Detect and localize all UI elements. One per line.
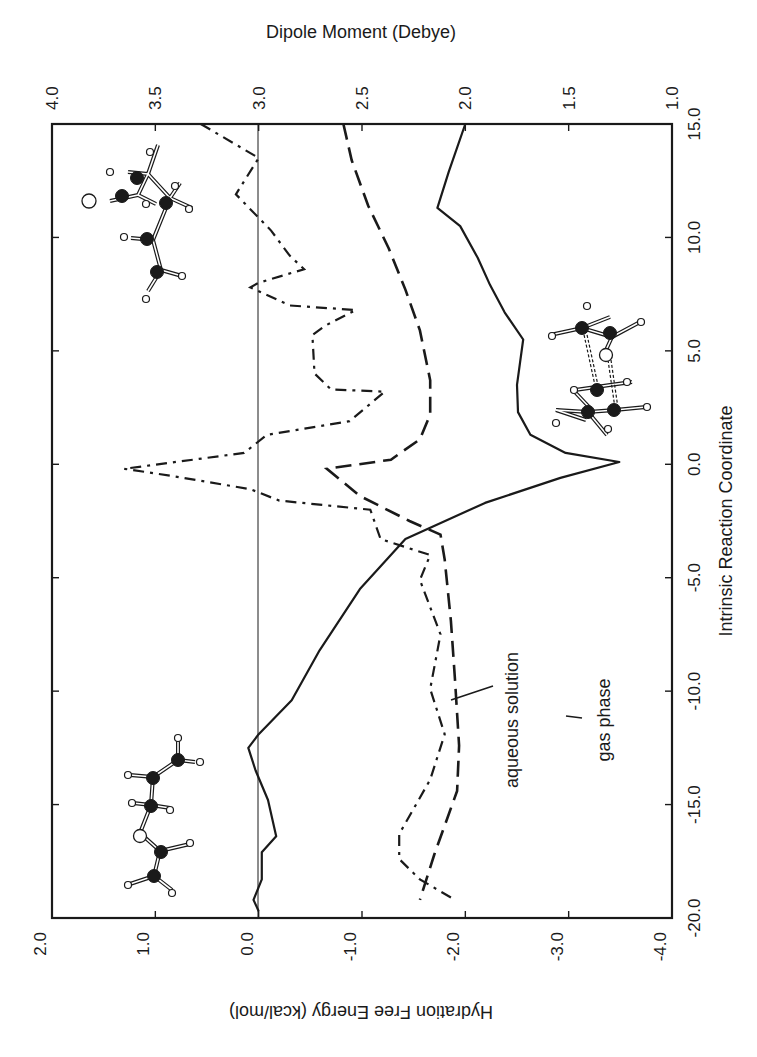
irc-tick-label: -10.0 xyxy=(685,672,704,711)
svg-text:-20.0: -20.0 xyxy=(685,899,704,938)
svg-text:0.0: 0.0 xyxy=(238,932,257,956)
hydration-tick-label: -4.0 xyxy=(651,932,670,961)
gas-phase-label: gas phase xyxy=(594,678,614,761)
chart: Dipole Moment (Debye) Hydration Free Ene… xyxy=(0,0,757,1057)
irc-axis-title-group: Intrinsic Reaction Coordinate xyxy=(716,405,736,636)
dipole-tick-label: 2.5 xyxy=(353,86,372,110)
svg-text:1.0: 1.0 xyxy=(663,86,682,110)
hydration-tick-label: 1.0 xyxy=(134,932,153,956)
svg-text:-2.0: -2.0 xyxy=(444,932,463,961)
svg-text:2.5: 2.5 xyxy=(353,86,372,110)
aqueous-solution-dipole-line xyxy=(124,124,455,900)
svg-text:3.5: 3.5 xyxy=(146,86,165,110)
product-molecule-icon xyxy=(82,145,193,303)
irc-tick-label: -20.0 xyxy=(685,899,704,938)
dipole-tick-label: 3.5 xyxy=(146,86,165,110)
irc-tick-label: 0.0 xyxy=(685,452,704,476)
svg-text:1.0: 1.0 xyxy=(134,932,153,956)
hydration-tick-labels: 2.01.00.0-1.0-2.0-3.0-4.0 xyxy=(31,932,670,961)
irc-tick-label: 15.0 xyxy=(685,107,704,140)
svg-text:15.0: 15.0 xyxy=(685,107,704,140)
reactant-molecule-icon xyxy=(125,735,204,897)
dipole-tick-labels: 4.03.53.02.52.01.51.0 xyxy=(43,86,682,110)
dipole-tick-label: 4.0 xyxy=(43,86,62,110)
aqueous-leader-line xyxy=(451,686,493,700)
hydration-tick-label: -3.0 xyxy=(548,932,567,961)
irc-tick-label: 5.0 xyxy=(685,339,704,363)
svg-text:-3.0: -3.0 xyxy=(548,932,567,961)
dipole-tick-label: 1.5 xyxy=(560,86,579,110)
irc-tick-label: -15.0 xyxy=(685,785,704,824)
gas-label-group: gas phase xyxy=(594,678,614,761)
hydration-tick-label: 2.0 xyxy=(31,932,50,956)
irc-tick-label: -5.0 xyxy=(685,563,704,592)
gas-phase-dipole-line xyxy=(327,124,459,900)
svg-text:-10.0: -10.0 xyxy=(685,672,704,711)
svg-text:3.0: 3.0 xyxy=(250,86,269,110)
svg-text:1.5: 1.5 xyxy=(560,86,579,110)
svg-text:5.0: 5.0 xyxy=(685,339,704,363)
irc-tick-label: 10.0 xyxy=(685,221,704,254)
dipole-tick-label: 3.0 xyxy=(250,86,269,110)
transition-state-molecule-icon xyxy=(549,303,651,436)
dipole-axis-title: Dipole Moment (Debye) xyxy=(266,22,456,42)
aqueous-label-group: aqueous solution xyxy=(502,652,522,788)
irc-axis-title: Intrinsic Reaction Coordinate xyxy=(716,405,736,636)
svg-text:2.0: 2.0 xyxy=(31,932,50,956)
irc-tick-labels: -20.0-15.0-10.0-5.00.05.010.015.0 xyxy=(685,107,704,937)
svg-text:2.0: 2.0 xyxy=(456,86,475,110)
svg-text:-5.0: -5.0 xyxy=(685,563,704,592)
hydration-axis-title-group: Hydration Free Energy (kcal/mol) xyxy=(229,1002,493,1022)
hydration-axis-title: Hydration Free Energy (kcal/mol) xyxy=(229,1002,493,1022)
svg-text:4.0: 4.0 xyxy=(43,86,62,110)
hydration-free-energy-line xyxy=(248,124,619,911)
hydration-tick-label: -1.0 xyxy=(341,932,360,961)
svg-text:10.0: 10.0 xyxy=(685,221,704,254)
dipole-tick-label: 1.0 xyxy=(663,86,682,110)
svg-text:-1.0: -1.0 xyxy=(341,932,360,961)
hydration-tick-label: 0.0 xyxy=(238,932,257,956)
dipole-tick-label: 2.0 xyxy=(456,86,475,110)
svg-text:-15.0: -15.0 xyxy=(685,785,704,824)
svg-text:-4.0: -4.0 xyxy=(651,932,670,961)
aqueous-solution-label: aqueous solution xyxy=(502,652,522,788)
hydration-tick-label: -2.0 xyxy=(444,932,463,961)
gas-leader-line xyxy=(566,716,582,718)
svg-text:0.0: 0.0 xyxy=(685,452,704,476)
